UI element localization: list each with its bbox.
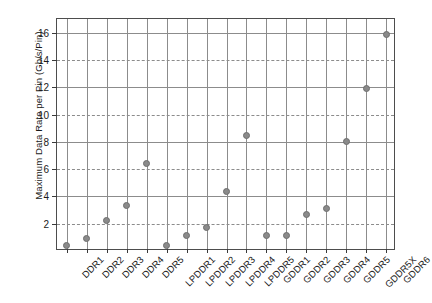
y-tick-label-4: 4 [43, 191, 49, 202]
gridline-x-GDDR2 [286, 19, 287, 249]
data-point-GDDR5X [363, 85, 370, 92]
x-axis-label-text: DDR5 [159, 254, 185, 280]
gridline-x-LPDDR2 [187, 19, 188, 249]
gridline-x-LPDDR3 [207, 19, 208, 249]
y-tick-12 [52, 87, 57, 88]
x-axis-labels: DDR1DDR2DDR3DDR4DDR5LPDDR1LPDDR2LPDDR3LP… [56, 250, 395, 303]
y-tick-label-8: 8 [43, 136, 49, 147]
gridline-x-DDR1 [67, 19, 68, 249]
data-point-LPDDR3 [203, 224, 210, 231]
data-point-LPDDR2 [183, 232, 190, 239]
data-point-LPDDR5 [243, 132, 250, 139]
data-point-DDR5 [143, 160, 150, 167]
gridline-x-DDR2 [87, 19, 88, 249]
y-tick-label-16: 16 [38, 27, 49, 38]
data-point-GDDR2 [283, 232, 290, 239]
data-point-GDDR4 [323, 205, 330, 212]
x-axis-label-text: DDR4 [139, 254, 165, 280]
y-tick-14 [52, 60, 57, 61]
y-tick-8 [52, 142, 57, 143]
data-point-LPDDR1 [163, 242, 170, 249]
y-tick-label-6: 6 [43, 164, 49, 175]
data-point-DDR2 [83, 235, 90, 242]
gridline-x-GDDR5 [346, 19, 347, 249]
y-tick-label-14: 14 [38, 54, 49, 65]
x-axis-label-text: DDR3 [119, 254, 145, 280]
y-tick-label-12: 12 [38, 82, 49, 93]
gridline-x-GDDR1 [266, 19, 267, 249]
gridline-x-LPDDR1 [167, 19, 168, 249]
gridline-x-GDDR4 [326, 19, 327, 249]
x-axis-label-DDR2: DDR2 [99, 254, 125, 280]
gridline-x-DDR4 [127, 19, 128, 249]
gridline-x-GDDR6 [386, 19, 387, 249]
y-tick-4 [52, 196, 57, 197]
gridline-x-DDR5 [147, 19, 148, 249]
y-tick-label-10: 10 [38, 109, 49, 120]
gridline-x-GDDR5X [366, 19, 367, 249]
gridline-x-LPDDR4 [227, 19, 228, 249]
x-axis-label-DDR4: DDR4 [139, 254, 165, 280]
gridline-x-DDR3 [107, 19, 108, 249]
x-axis-label-text: DDR2 [99, 254, 125, 280]
data-point-DDR4 [123, 202, 130, 209]
y-tick-label-2: 2 [43, 218, 49, 229]
y-tick-6 [52, 169, 57, 170]
data-point-GDDR6 [383, 31, 390, 38]
y-tick-16 [52, 33, 57, 34]
data-point-GDDR5 [343, 138, 350, 145]
y-tick-10 [52, 115, 57, 116]
x-axis-label-text: DDR1 [80, 254, 106, 280]
x-axis-label-DDR1: DDR1 [80, 254, 106, 280]
data-point-LPDDR4 [223, 188, 230, 195]
plot-area: 246810121416 [56, 18, 395, 250]
x-axis-label-DDR5: DDR5 [159, 254, 185, 280]
x-axis-label-DDR3: DDR3 [119, 254, 145, 280]
y-tick-2 [52, 224, 57, 225]
data-point-GDDR3 [303, 211, 310, 218]
data-point-DDR1 [63, 242, 70, 249]
data-point-GDDR1 [263, 232, 270, 239]
